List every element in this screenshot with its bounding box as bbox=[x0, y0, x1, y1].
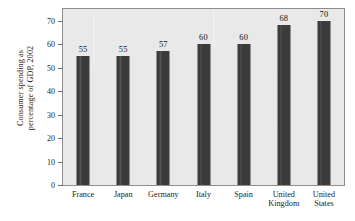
bar-value-label: 60 bbox=[199, 33, 208, 42]
y-tick-label: 40 bbox=[47, 87, 55, 96]
bar-value-label: 68 bbox=[279, 14, 288, 23]
bar-value-label: 55 bbox=[119, 45, 128, 54]
y-tick-mark bbox=[58, 138, 63, 139]
y-tick-label: 10 bbox=[47, 157, 55, 166]
y-tick-mark bbox=[58, 21, 63, 22]
y-tick-mark bbox=[58, 91, 63, 92]
y-tick-label: 30 bbox=[47, 110, 55, 119]
y-tick-mark bbox=[58, 162, 63, 163]
bar-highlight bbox=[320, 21, 322, 185]
bar-highlight bbox=[120, 56, 122, 185]
bar bbox=[197, 44, 210, 185]
y-tick-mark bbox=[58, 68, 63, 69]
x-axis-label: United States bbox=[295, 190, 353, 209]
y-tick-label: 70 bbox=[47, 16, 55, 25]
bar bbox=[77, 56, 90, 185]
bar-highlight bbox=[280, 25, 282, 185]
bar-highlight bbox=[160, 51, 162, 185]
bar-chart-figure: Consumer spending as percentage of GDP, … bbox=[0, 0, 355, 221]
y-tick-mark bbox=[58, 44, 63, 45]
y-tick-mark bbox=[58, 185, 63, 186]
plot-area: 010203040506070 55555760606870 bbox=[62, 8, 345, 186]
bar bbox=[237, 44, 250, 185]
bar bbox=[117, 56, 130, 185]
y-tick-label: 0 bbox=[51, 181, 55, 190]
bar-value-label: 60 bbox=[239, 33, 248, 42]
bar-highlight bbox=[240, 44, 242, 185]
bar-value-label: 57 bbox=[159, 40, 168, 49]
bar-value-label: 55 bbox=[79, 45, 88, 54]
bar bbox=[277, 25, 290, 185]
bar-highlight bbox=[200, 44, 202, 185]
y-tick-label: 60 bbox=[47, 40, 55, 49]
bar bbox=[157, 51, 170, 185]
y-tick-mark bbox=[58, 115, 63, 116]
bar-highlight bbox=[80, 56, 82, 185]
paper-texture bbox=[93, 13, 95, 65]
y-tick-label: 20 bbox=[47, 134, 55, 143]
paper-texture bbox=[213, 9, 215, 49]
bar-value-label: 70 bbox=[320, 10, 329, 19]
y-axis-title: Consumer spending as percentage of GDP, … bbox=[16, 0, 36, 178]
y-tick-label: 50 bbox=[47, 63, 55, 72]
bar bbox=[317, 21, 330, 185]
